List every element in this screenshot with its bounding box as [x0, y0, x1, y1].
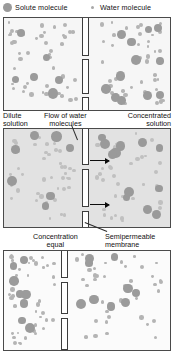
water-molecule	[32, 259, 36, 263]
water-molecule	[59, 162, 62, 165]
water-molecule	[57, 92, 60, 95]
water-molecule	[24, 336, 28, 340]
water-molecule	[63, 213, 66, 216]
water-molecule	[105, 320, 108, 323]
solute-circle-icon	[3, 3, 12, 12]
water-molecule	[146, 54, 151, 59]
water-molecule	[33, 143, 36, 146]
water-molecule	[21, 173, 24, 176]
water-molecule	[158, 200, 162, 204]
semipermeable-membrane-segment	[82, 128, 89, 165]
water-molecule	[115, 143, 118, 146]
water-molecule	[60, 213, 63, 216]
water-molecule	[27, 274, 30, 277]
solute-molecule	[156, 91, 164, 99]
water-molecule	[114, 93, 118, 97]
solute-molecule	[9, 276, 19, 286]
legend-label-water: Water molecule	[100, 3, 151, 12]
water-molecule	[108, 165, 112, 169]
water-molecule	[66, 177, 69, 180]
water-molecule	[103, 275, 106, 278]
water-molecule	[32, 329, 36, 333]
water-molecule	[64, 172, 67, 175]
water-molecule	[140, 80, 143, 83]
water-molecule	[155, 184, 159, 188]
water-molecule	[140, 155, 144, 159]
water-molecule	[22, 90, 25, 93]
water-molecule	[137, 58, 141, 62]
water-molecule	[62, 187, 66, 191]
water-molecule	[101, 178, 105, 182]
water-molecule	[114, 77, 118, 81]
water-molecule	[121, 220, 124, 223]
label-semipermeable-membrane: Semipermeable membrane	[105, 233, 155, 249]
water-molecule	[125, 26, 129, 30]
water-molecule	[11, 83, 14, 86]
water-molecule	[81, 253, 84, 256]
label-flow-line2: molecules	[44, 120, 87, 128]
water-molecule	[63, 165, 67, 169]
water-molecule	[47, 153, 50, 156]
water-molecule	[121, 195, 124, 198]
water-molecule	[93, 267, 96, 270]
water-molecule	[120, 216, 124, 220]
water-molecule	[81, 278, 84, 281]
water-molecule	[114, 194, 118, 198]
water-molecule	[151, 34, 154, 37]
solute-molecule	[123, 194, 130, 201]
water-molecule	[124, 265, 127, 268]
water-molecule	[18, 52, 21, 55]
solute-molecule	[66, 144, 74, 152]
water-molecule	[13, 341, 17, 345]
water-molecule	[48, 53, 51, 56]
water-molecule	[71, 30, 75, 34]
solute-molecule	[132, 289, 140, 297]
water-molecule	[102, 40, 105, 43]
water-molecule	[120, 260, 124, 264]
water-molecule	[98, 172, 102, 176]
equilibrium-panel	[3, 250, 171, 351]
water-molecule	[53, 142, 56, 145]
solute-molecule	[116, 141, 126, 151]
solute-molecule	[123, 284, 132, 293]
water-molecule	[61, 74, 65, 78]
solute-molecule	[143, 91, 152, 100]
water-molecule	[49, 56, 52, 59]
water-molecule	[142, 183, 145, 186]
water-molecule	[42, 157, 45, 160]
solute-molecule	[117, 30, 126, 39]
water-molecule	[60, 42, 64, 46]
water-molecule	[41, 311, 45, 315]
label-concentration-equal: Concentration equal	[33, 233, 78, 249]
water-molecule	[155, 88, 158, 91]
solute-molecule	[138, 138, 147, 147]
water-molecule	[57, 187, 60, 190]
solute-molecule	[145, 26, 152, 33]
label-dilute-line2: solution	[3, 119, 28, 128]
water-molecule	[8, 293, 11, 296]
water-molecule	[14, 141, 18, 145]
solute-molecule	[131, 55, 141, 65]
water-molecule	[96, 143, 100, 147]
water-molecule	[23, 85, 27, 89]
water-molecule	[131, 197, 135, 201]
water-molecule	[21, 33, 24, 36]
water-molecule	[44, 92, 48, 96]
water-molecule	[43, 31, 46, 34]
water-molecule	[12, 139, 17, 144]
water-molecule	[93, 278, 97, 282]
solute-molecule	[101, 84, 111, 94]
water-molecule	[102, 208, 106, 212]
water-molecule	[62, 34, 65, 37]
solute-molecule	[100, 139, 110, 149]
water-molecule	[10, 279, 14, 283]
solute-molecule	[156, 144, 163, 151]
water-molecule	[140, 265, 144, 269]
solute-molecule	[85, 259, 93, 267]
solute-molecule	[89, 295, 98, 304]
water-flow-arrow	[90, 204, 109, 205]
water-molecule	[9, 32, 12, 35]
water-molecule	[51, 318, 55, 322]
water-molecule	[153, 73, 157, 77]
label-equal-line2: equal	[33, 241, 78, 249]
